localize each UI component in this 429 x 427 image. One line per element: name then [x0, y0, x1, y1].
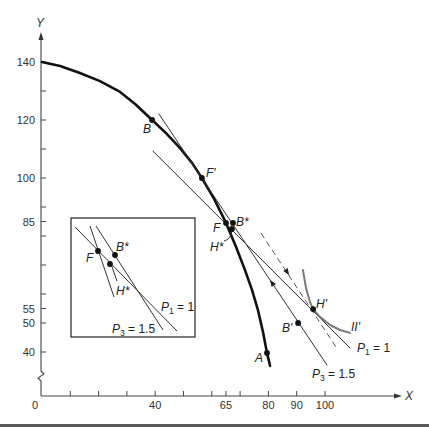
chart-canvas: Y X 04065809010014012010085555040 B F' F… — [0, 0, 429, 427]
point-B-prime — [295, 320, 301, 326]
point-F — [223, 220, 229, 226]
point-A — [264, 350, 270, 356]
y-tick-label: 40 — [23, 346, 35, 358]
y-tick-label: 55 — [23, 303, 35, 315]
point-H-star — [229, 226, 235, 232]
inset-point-H-star — [107, 261, 113, 267]
label-H-star: H* — [210, 240, 224, 254]
label-B-prime: B' — [282, 321, 293, 335]
inset-frame — [71, 218, 195, 337]
inset-label-p3: P3 = 1.5 — [112, 322, 155, 338]
x-tick-label: 80 — [262, 399, 274, 411]
inset-point-F — [95, 248, 101, 254]
point-F-prime — [199, 175, 205, 181]
y-axis-arrow-icon — [39, 32, 44, 40]
inset-label-p1: P1 = 1 — [161, 300, 194, 316]
x-tick-label: 90 — [291, 399, 303, 411]
label-A: A — [254, 351, 263, 365]
label-B-star: B* — [236, 215, 249, 229]
x-axis-label: X — [404, 389, 414, 403]
direction-arrow-icon — [268, 278, 276, 287]
label-B: B — [143, 122, 151, 136]
y-tick-label: 50 — [23, 317, 35, 329]
label-II-prime: II' — [351, 320, 361, 334]
y-axis-label: Y — [36, 16, 45, 30]
inset-label-B-star: B* — [116, 240, 129, 254]
inset-label-H-star: H* — [116, 284, 130, 298]
inset-label-F: F — [86, 251, 94, 265]
label-price-p1: P1 = 1 — [357, 341, 390, 357]
y-axis — [38, 36, 44, 396]
x-tick-label: 40 — [149, 399, 161, 411]
y-tick-label: 120 — [17, 114, 35, 126]
x-tick-label: 65 — [220, 399, 232, 411]
label-F: F — [213, 221, 221, 235]
label-H-prime: H' — [316, 297, 328, 311]
y-tick-label: 100 — [17, 172, 35, 184]
y-tick-label: 85 — [23, 216, 35, 228]
x-tick-label: 100 — [316, 399, 334, 411]
dashed-line — [261, 233, 338, 350]
label-price-p3: P3 = 1.5 — [312, 367, 355, 383]
x-tick-label: 0 — [32, 399, 38, 411]
x-axis-arrow-icon — [394, 394, 402, 399]
y-tick-label: 140 — [17, 56, 35, 68]
inset-panel: F B* H* P1 = 1 P3 = 1.5 — [71, 218, 195, 338]
label-F-prime: F' — [206, 166, 216, 180]
